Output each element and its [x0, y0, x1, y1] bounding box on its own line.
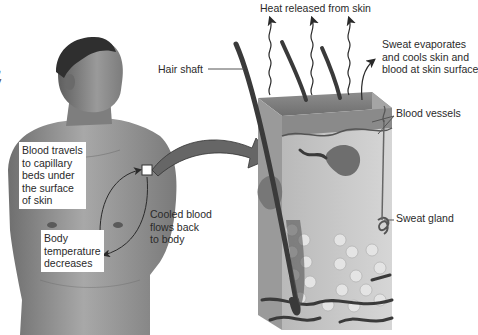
label-line: the surface	[22, 182, 83, 195]
label-line: temperature	[44, 245, 101, 258]
skin-patch-marker	[142, 165, 152, 175]
hair-shaft-label: Hair shaft	[158, 63, 203, 76]
label-line: of skin	[22, 194, 83, 207]
label-line: Sweat evaporates	[382, 38, 478, 51]
label-line: to capillary	[22, 157, 83, 170]
fragment-line: l,	[0, 62, 1, 75]
blood-vessels-label: Blood vessels	[396, 107, 461, 120]
cropped-text-fragment: l, y	[0, 62, 1, 87]
label-line: decreases	[44, 257, 101, 270]
fragment-line: y	[0, 75, 1, 88]
label-line: and cools skin and	[382, 51, 478, 64]
label-line: Blood travels	[22, 144, 83, 157]
label-line: Cooled blood	[150, 208, 212, 221]
label-line: to body	[150, 233, 212, 246]
sweat-evaporates-label: Sweat evaporates and cools skin and bloo…	[382, 38, 478, 76]
cooled-blood-label: Cooled blood flows back to body	[150, 208, 212, 246]
heat-released-label: Heat released from skin	[260, 2, 371, 15]
label-line: beds under	[22, 169, 83, 182]
blood-travels-box: Blood travels to capillary beds under th…	[19, 142, 86, 209]
body-temperature-box: Body temperature decreases	[41, 230, 104, 272]
sweat-gland-label: Sweat gland	[396, 212, 454, 225]
label-line: blood at skin surface	[382, 63, 478, 76]
label-line: Body	[44, 232, 101, 245]
label-line: flows back	[150, 221, 212, 234]
heat-arrows	[269, 18, 350, 95]
